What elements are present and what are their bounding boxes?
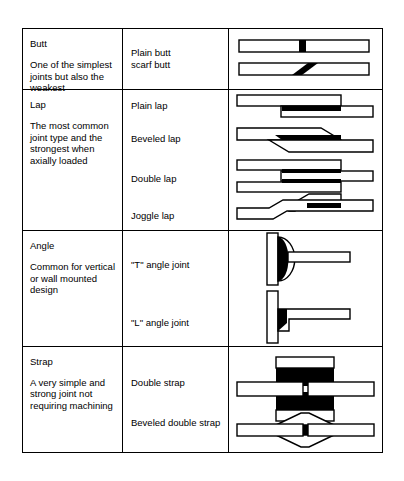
table-row: Butt One of the simplest joints but also…: [23, 29, 382, 90]
figures-cell-strap: [229, 347, 382, 452]
category-title: Strap: [30, 356, 115, 368]
beveled-double-strap-figure: [237, 413, 374, 447]
category-description: One of the simplest joints but also the …: [30, 59, 115, 94]
category-description: Common for vertical or wall mounted desi…: [30, 261, 115, 296]
table-row: Lap The most common joint type and the s…: [23, 90, 382, 231]
category-description: The most common joint type and the stron…: [30, 120, 115, 166]
angle-joint-figures: [229, 231, 383, 347]
joint-names-cell-angle: "T" angle joint "L" angle joint: [123, 231, 229, 345]
joint-name-l-angle: "L" angle joint: [131, 317, 189, 329]
joint-name-joggle-lap: Joggle lap: [131, 210, 174, 222]
t-angle-joint-figure: [267, 233, 350, 285]
joint-types-table: Butt One of the simplest joints but also…: [22, 28, 383, 453]
figures-cell-lap: [229, 90, 382, 230]
table-row: Strap A very simple and strong joint not…: [23, 347, 382, 452]
category-cell-butt: Butt One of the simplest joints but also…: [23, 29, 123, 89]
joint-name-double-lap: Double lap: [131, 173, 176, 185]
category-cell-strap: Strap A very simple and strong joint not…: [23, 347, 123, 452]
category-cell-angle: Angle Common for vertical or wall mounte…: [23, 231, 123, 345]
joint-name-beveled-double-strap: Beveled double strap: [131, 417, 220, 429]
scarf-butt-figure: [239, 63, 369, 75]
strap-joint-figures: [229, 347, 383, 453]
joint-name-beveled-lap: Beveled lap: [131, 133, 181, 145]
joint-name-scarf-butt: scarf butt: [131, 59, 170, 71]
joggle-lap-figure: [237, 194, 373, 219]
lap-joint-figures: [229, 90, 383, 232]
plain-lap-figure: [237, 95, 373, 117]
joint-name-plain-butt: Plain butt: [131, 47, 171, 59]
beveled-lap-figure: [237, 128, 373, 152]
joint-names-cell-strap: Double strap Beveled double strap: [123, 347, 229, 452]
joint-names-cell-butt: Plain butt scarf butt: [123, 29, 229, 89]
joint-names-cell-lap: Plain lap Beveled lap Double lap Joggle …: [123, 90, 229, 230]
double-lap-figure: [237, 160, 373, 192]
butt-joint-figures: [229, 29, 383, 90]
category-description: A very simple and strong joint not requi…: [30, 377, 115, 412]
figures-cell-butt: [229, 29, 382, 89]
joint-name-double-strap: Double strap: [131, 377, 185, 389]
category-cell-lap: Lap The most common joint type and the s…: [23, 90, 123, 230]
figures-cell-angle: [229, 231, 382, 345]
table-row: Angle Common for vertical or wall mounte…: [23, 231, 382, 346]
plain-butt-figure: [239, 40, 369, 52]
category-title: Angle: [30, 240, 115, 252]
double-strap-figure: [237, 357, 374, 421]
category-title: Lap: [30, 99, 115, 111]
l-angle-joint-figure: [267, 291, 350, 343]
joint-name-plain-lap: Plain lap: [131, 100, 167, 112]
joint-name-t-angle: "T" angle joint: [131, 259, 190, 271]
category-title: Butt: [30, 38, 115, 50]
